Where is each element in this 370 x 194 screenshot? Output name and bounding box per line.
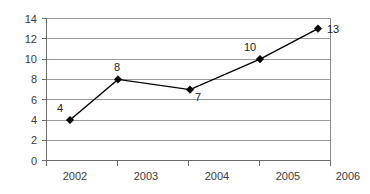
- x-tick-label-2002: 2002: [63, 170, 87, 182]
- y-tick-label-8: 8: [31, 73, 37, 85]
- y-tick-label-4: 4: [31, 114, 37, 126]
- x-tick-label-2005: 2005: [276, 170, 300, 182]
- data-label-2004: 7: [195, 91, 201, 103]
- x-axis-tick-labels: 2002 2003 2004 2005 2006: [63, 170, 360, 182]
- data-label-2002: 4: [57, 102, 63, 114]
- y-tick-label-10: 10: [25, 53, 37, 65]
- x-tick-label-2004: 2004: [205, 170, 229, 182]
- y-tick-label-12: 12: [25, 33, 37, 45]
- line-chart: 14 12 10 8 6 4 2 0 2002 2003 2004 2005 2…: [0, 0, 370, 194]
- data-label-2005: 10: [244, 41, 256, 53]
- chart-canvas: 14 12 10 8 6 4 2 0 2002 2003 2004 2005 2…: [0, 0, 370, 194]
- x-tick-label-2006: 2006: [336, 170, 360, 182]
- y-tick-label-6: 6: [31, 94, 37, 106]
- x-tick-marks: [47, 161, 331, 166]
- y-tick-label-0: 0: [31, 155, 37, 167]
- y-axis-tick-labels: 14 12 10 8 6 4 2 0: [25, 13, 37, 167]
- y-tick-label-2: 2: [31, 134, 37, 146]
- data-label-2006: 13: [327, 23, 339, 35]
- y-tick-marks: [42, 19, 47, 161]
- x-tick-label-2003: 2003: [134, 170, 158, 182]
- y-tick-label-14: 14: [25, 13, 37, 25]
- data-label-2003: 8: [114, 61, 120, 73]
